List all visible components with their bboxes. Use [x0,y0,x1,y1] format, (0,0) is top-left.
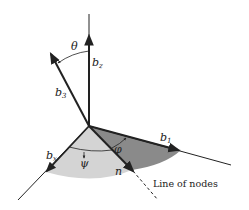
psi-label: ψ [80,157,89,170]
b3-label: b3 [55,86,67,100]
line-of-nodes-label: Line of nodes [153,178,218,189]
theta-label: θ [71,40,78,53]
bz-label: bz [92,56,103,70]
euler-angle-diagram: θ bz b3 b1 bx ψ φ n Line of nodes [0,0,249,210]
bx-label: bx [46,149,57,163]
n-label: n [115,165,122,178]
b1-label: b1 [160,131,172,145]
phi-label: φ [114,143,122,156]
